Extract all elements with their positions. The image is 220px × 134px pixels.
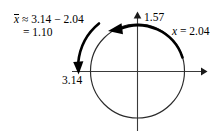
x-bar-variable: x — [14, 13, 19, 26]
vertical-axis-arrowhead-icon — [134, 12, 142, 19]
annotation-line-1-rest: ≈ 3.14 − 2.04 — [19, 13, 84, 25]
annotation-line-1: x ≈ 3.14 − 2.04 — [14, 13, 84, 26]
annotation-xbar-calculation: x ≈ 3.14 − 2.04 = 1.10 — [14, 13, 84, 39]
x-variable: x — [172, 25, 177, 38]
x-bar-variable-letter: x — [14, 13, 19, 25]
annotation-line-2: = 1.10 — [14, 26, 84, 39]
outer-sweep-arrowhead-icon — [73, 61, 83, 74]
unit-circle-diagram: x ≈ 3.14 − 2.04 = 1.10 1.57 x = 2.04 3.1… — [0, 0, 220, 134]
horizontal-axis-arrowhead-icon — [201, 68, 208, 76]
label-top-axis-1-57: 1.57 — [144, 11, 164, 24]
label-angle-x-equals: x = 2.04 — [172, 25, 209, 38]
label-angle-x-value: = 2.04 — [177, 25, 209, 37]
horizontal-axis — [72, 68, 208, 76]
label-left-axis-3-14: 3.14 — [62, 74, 82, 87]
overbar-accent-icon — [14, 14, 19, 15]
